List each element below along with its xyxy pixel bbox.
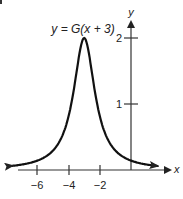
curve-g-shifted [12,38,157,166]
x-tick-label-neg4: −4 [63,179,76,191]
y-axis-label: y [127,6,135,18]
y-tick-label-2: 2 [116,32,122,44]
y-tick-label-1: 1 [116,98,122,110]
x-tick-label-neg2: −2 [94,179,107,191]
graph: −6 −4 −2 1 2 x y y = G(x + 3) [0,0,183,199]
x-axis-label: x [173,163,180,175]
corner-mark [0,0,2,4]
x-tick-label-neg6: −6 [31,179,44,191]
curve-label: y = G(x + 3) [50,22,114,36]
